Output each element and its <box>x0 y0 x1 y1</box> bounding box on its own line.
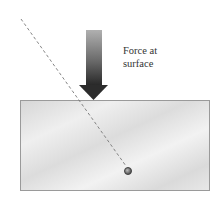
force-label: Force at surface <box>123 44 157 70</box>
force-label-line2: surface <box>123 57 157 70</box>
force-arrow-icon <box>79 30 108 100</box>
point-marker <box>125 168 132 175</box>
force-diagram <box>0 0 220 197</box>
force-label-line1: Force at <box>123 44 157 57</box>
object-block <box>21 101 210 191</box>
